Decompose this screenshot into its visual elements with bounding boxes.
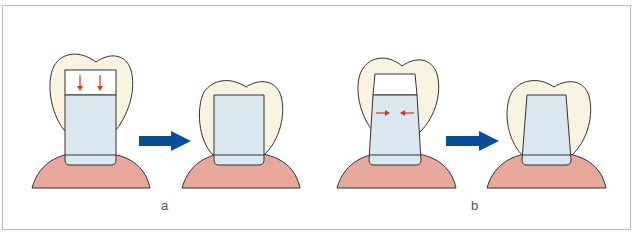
post-cap-gap (373, 74, 417, 95)
panel-b-label: b (471, 198, 478, 213)
blue-right-arrow-icon (139, 131, 191, 151)
panel-a-before-tooth (32, 54, 150, 188)
panel-b (337, 58, 606, 188)
blue-right-arrow-icon (446, 131, 499, 151)
dental-post-diagram (0, 0, 636, 236)
panel-a-label: a (161, 198, 168, 213)
post-cap-gap (65, 70, 116, 95)
panel-b-before-tooth (337, 58, 456, 188)
panel-a (32, 54, 300, 188)
panel-a-after-tooth (182, 81, 300, 188)
panel-b-after-tooth (487, 81, 606, 188)
